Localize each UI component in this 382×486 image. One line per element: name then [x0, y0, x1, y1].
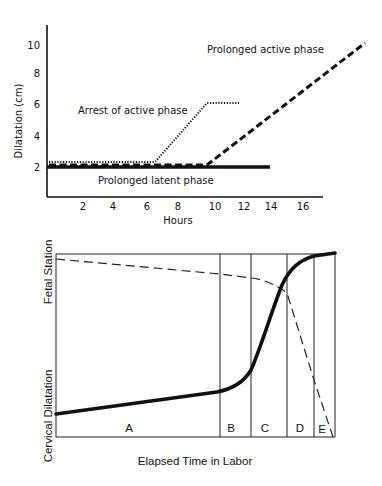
- segment-label-b: B: [227, 422, 235, 434]
- x-tick-14: 14: [265, 201, 278, 212]
- x-tick-12: 12: [238, 201, 251, 212]
- y-tick-8: 8: [34, 68, 40, 79]
- label-prolonged-active: Prolonged active phase: [207, 44, 324, 55]
- x-tick-16: 16: [297, 201, 310, 212]
- segment-label-e: E: [318, 423, 326, 435]
- x-tick-10: 10: [209, 201, 222, 212]
- y-tick-4: 4: [34, 131, 40, 142]
- y-tick-6: 6: [34, 99, 40, 110]
- y-tick-2: 2: [34, 162, 40, 173]
- x-tick-4: 4: [110, 201, 116, 212]
- x-axis-label-hours: Hours: [163, 215, 192, 226]
- y-tick-10: 10: [27, 40, 40, 51]
- segment-label-d: D: [296, 422, 304, 434]
- series-cervical-dilatation: [56, 253, 335, 414]
- y-axis-label-cervical-dilatation: Cervical Dilatation: [42, 370, 54, 463]
- segment-label-c: C: [261, 422, 269, 434]
- x-tick-8: 8: [175, 201, 181, 212]
- y-axis-label-dilatation: Dilatation (cm): [13, 83, 24, 158]
- x-axis-label-elapsed-time: Elapsed Time in Labor: [138, 455, 253, 467]
- top-chart: 10 8 6 4 2 2 4 6 8 10 12 14 16 Hours Dil…: [13, 25, 365, 226]
- label-arrest-active: Arrest of active phase: [78, 105, 188, 116]
- x-tick-2: 2: [80, 201, 86, 212]
- segment-label-a: A: [125, 422, 133, 434]
- series-prolonged-active: [49, 43, 365, 165]
- figure: 10 8 6 4 2 2 4 6 8 10 12 14 16 Hours Dil…: [0, 0, 382, 486]
- y-axis-label-fetal-station: Fetal Station: [42, 240, 54, 305]
- series-fetal-station: [56, 259, 333, 437]
- bottom-chart: A B C D E Fetal Station Cervical Dilatat…: [42, 240, 335, 467]
- x-tick-6: 6: [144, 201, 150, 212]
- label-prolonged-latent: Prolonged latent phase: [98, 175, 214, 186]
